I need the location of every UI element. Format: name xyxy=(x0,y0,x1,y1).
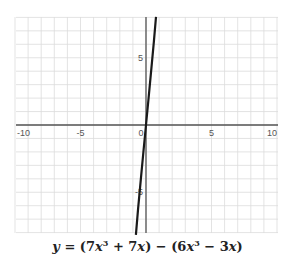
eq-part: − 3 xyxy=(200,239,229,254)
eq-y: y xyxy=(52,239,60,254)
eq-part: + 7 xyxy=(108,239,137,254)
eq-part: 7 xyxy=(86,239,95,254)
x-tick-label: 10 xyxy=(267,128,277,138)
eq-x: x xyxy=(95,239,103,254)
eq-x: x xyxy=(137,239,145,254)
x-tick-label: -10 xyxy=(17,128,30,138)
y-tick-label: 5 xyxy=(138,53,143,63)
graph-plot: -10-505105-5 xyxy=(0,0,295,240)
x-tick-label: 5 xyxy=(209,128,214,138)
equation-caption: y = (7x3 + 7x) − (6x3 − 3x) xyxy=(0,238,295,254)
x-tick-label: -5 xyxy=(76,128,84,138)
eq-part: = ( xyxy=(60,239,86,254)
eq-x: x xyxy=(229,239,237,254)
eq-part: ) − (6 xyxy=(145,239,186,254)
x-tick-label: 0 xyxy=(138,128,143,138)
eq-part: ) xyxy=(237,239,243,254)
